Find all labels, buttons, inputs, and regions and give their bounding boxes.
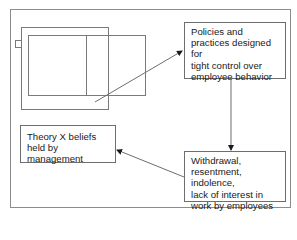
withdrawal-box: Withdrawal, resentment, indolence, lack …	[184, 151, 286, 202]
theory-x-box: Theory X beliefs held by management	[20, 125, 116, 163]
side-tab	[15, 40, 22, 48]
policies-box: Policies and practices designed for tigh…	[184, 22, 286, 79]
front-rectangle-divider	[86, 35, 87, 96]
front-rectangle	[28, 35, 146, 96]
